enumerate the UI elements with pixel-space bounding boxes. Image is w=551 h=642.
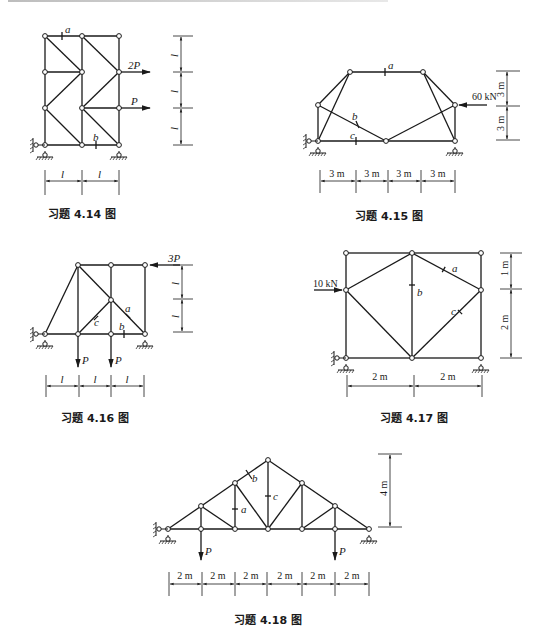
dim-label: l: [98, 168, 101, 180]
dim-label: 1 m: [499, 261, 510, 277]
dim-label: 3 m: [396, 168, 412, 179]
member-label-b: b: [417, 286, 423, 298]
dim-label: 2 m: [210, 570, 226, 581]
dim-label: 4 m: [378, 481, 389, 497]
dim-label: 2 m: [277, 570, 293, 581]
load-label-P: P: [114, 354, 122, 366]
member-label-a: a: [65, 23, 71, 35]
load-label-2P: 2P: [128, 59, 141, 71]
horizontal-dimension: [169, 572, 369, 596]
pin-support-icon: [159, 535, 176, 544]
dim-label: l: [168, 90, 180, 93]
figure-caption: 习题 4.18 图: [234, 614, 302, 627]
dim-label: 2 m: [177, 570, 193, 581]
dim-label: 3 m: [329, 168, 345, 179]
dim-label: 2 m: [372, 371, 388, 382]
dim-label: l: [60, 373, 63, 385]
dim-label: l: [168, 54, 180, 57]
figure-caption: 习题 4.15 图: [355, 210, 423, 223]
member-b-marker: [356, 121, 359, 128]
pin-support-icon: [472, 364, 489, 373]
vertical-dimension: [173, 265, 193, 332]
member-label-a: a: [388, 59, 394, 71]
dim-label: 3 m: [495, 116, 506, 132]
member-label-c: c: [451, 305, 456, 317]
pin-support-icon: [36, 340, 53, 349]
dim-label: 2 m: [344, 570, 360, 581]
load-label-P: P: [130, 95, 138, 107]
roller-support-icon: [303, 134, 318, 149]
dim-label: 2 m: [310, 570, 326, 581]
truss-members: [168, 460, 369, 529]
pin-support-icon: [136, 340, 153, 349]
dim-label: l: [169, 282, 181, 285]
dim-label: 3 m: [430, 168, 446, 179]
dim-label: l: [169, 315, 181, 318]
truss-figures-sheet: a b 2P P l l l l l 习: [0, 0, 551, 642]
load-label-P: P: [81, 354, 89, 366]
member-label-c: c: [273, 490, 278, 502]
member-label-c: c: [94, 316, 99, 328]
figure-4-17: a b c 10 kN 1 m 2 m 2 m 2 m 习题 4.17 图: [313, 251, 522, 425]
dim-label: 3 m: [364, 168, 380, 179]
member-label-a: a: [241, 503, 247, 515]
horizontal-dimension: [45, 170, 119, 195]
figure-4-14: a b 2P P l l l l l 习: [30, 23, 193, 221]
member-label-c: c: [350, 129, 355, 141]
figure-caption: 习题 4.16 图: [61, 412, 129, 425]
figure-4-15: a b c 60 kN 3 m 3 m 3 m 3 m: [303, 59, 520, 223]
figure-4-18: b a c P P 4 m: [153, 454, 402, 627]
truss-members: [318, 72, 455, 141]
pin-support-icon: [446, 147, 463, 156]
truss-members: [45, 36, 119, 145]
pin-support-icon: [110, 151, 127, 160]
member-label-a: a: [125, 302, 131, 314]
load-label-3P: 3P: [167, 252, 181, 264]
load-label-P: P: [338, 545, 346, 557]
dim-label: 2 m: [499, 315, 510, 331]
dim-label: l: [168, 127, 180, 130]
figure-caption: 习题 4.17 图: [380, 412, 448, 425]
load-label-P: P: [204, 545, 212, 557]
member-label-b: b: [252, 472, 258, 484]
pin-support-icon: [36, 151, 53, 160]
dim-label: 2 m: [243, 570, 259, 581]
figure-caption: 习题 4.14 图: [48, 208, 116, 221]
member-label-b: b: [93, 131, 99, 143]
member-label-b: b: [352, 110, 358, 122]
dim-label: l: [61, 168, 64, 180]
member-label-b: b: [119, 320, 125, 332]
pin-support-icon: [309, 147, 326, 156]
dim-label: 2 m: [440, 371, 456, 382]
dim-label: l: [93, 373, 96, 385]
dim-label: 3 m: [495, 82, 506, 98]
joints: [316, 70, 458, 144]
horizontal-dimension: [347, 375, 482, 397]
load-label-10kN: 10 kN: [313, 278, 338, 289]
joints: [344, 251, 484, 361]
dim-label: l: [125, 373, 128, 385]
roller-support-icon: [153, 522, 168, 537]
roller-support-icon: [30, 138, 45, 153]
pin-support-icon: [337, 364, 354, 373]
member-label-a: a: [452, 262, 458, 274]
pin-support-icon: [360, 535, 377, 544]
roller-support-icon: [331, 351, 346, 366]
figure-4-16: c a b 3P P P l l l: [30, 252, 193, 425]
member-a-marker: [126, 314, 130, 318]
truss-members: [346, 253, 481, 358]
load-label-60kN: 60 kN: [472, 91, 497, 102]
roller-support-icon: [30, 327, 45, 342]
